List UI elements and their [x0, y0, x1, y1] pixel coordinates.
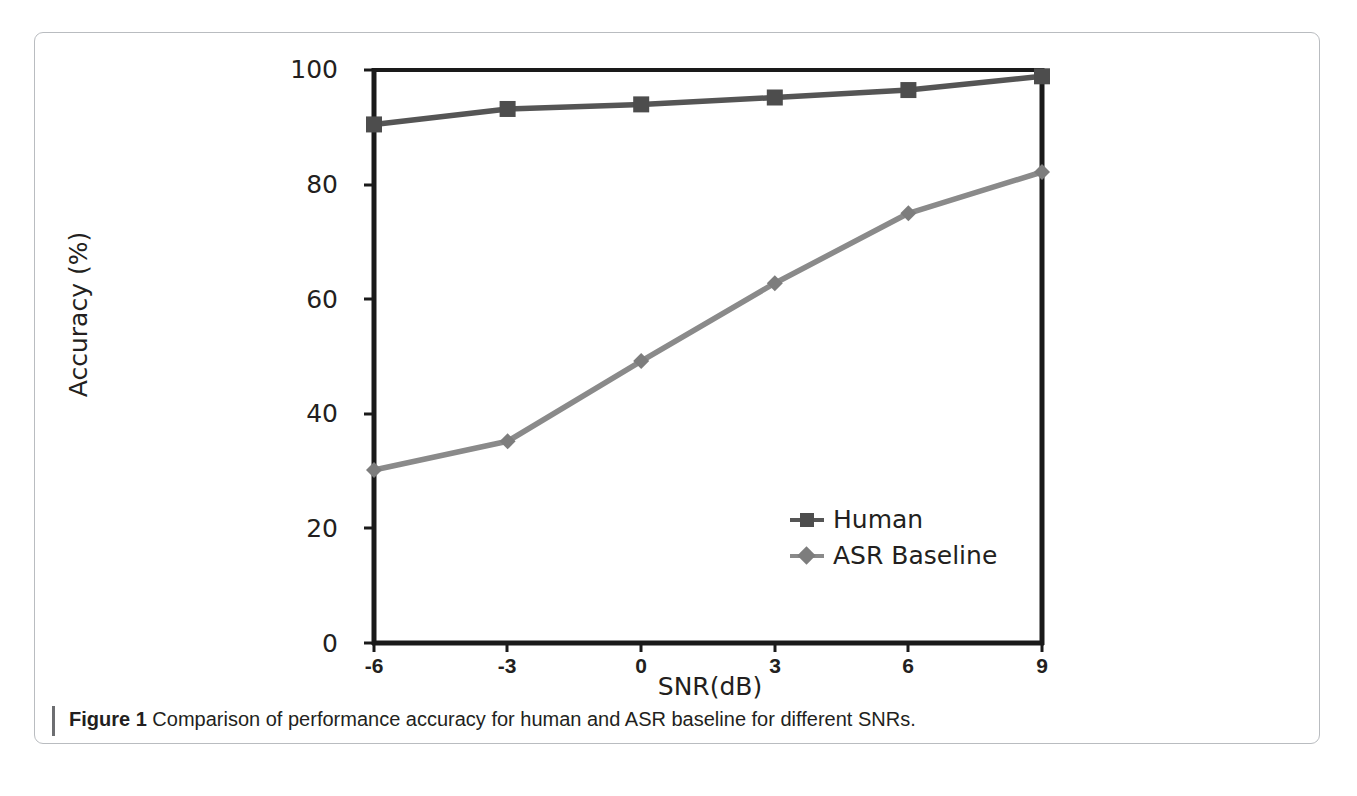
x-tick-label-6: 6 — [878, 655, 938, 676]
x-tick-label--3: -3 — [477, 655, 537, 676]
chart-legend: Human ASR Baseline — [790, 502, 997, 574]
x-tick-label--6: -6 — [344, 655, 404, 676]
caption-prefix: Figure 1 — [69, 708, 147, 730]
legend-label-human: Human — [833, 503, 923, 537]
y-tick-label-80: 80 — [278, 172, 338, 197]
figure-page: 100 80 60 40 20 0 -6 -3 0 3 6 9 Accuracy… — [0, 0, 1357, 796]
x-axis-title: SNR(dB) — [560, 672, 860, 701]
y-tick-label-0: 0 — [278, 631, 338, 656]
caption-body: Comparison of performance accuracy for h… — [152, 708, 915, 730]
caption-text: Figure 1 Comparison of performance accur… — [69, 706, 916, 732]
legend-marker-square-icon — [790, 512, 824, 528]
caption-rule — [52, 706, 55, 736]
legend-label-asr-baseline: ASR Baseline — [833, 539, 997, 573]
y-tick-label-20: 20 — [278, 516, 338, 541]
legend-item-human: Human — [790, 502, 997, 538]
y-tick-label-40: 40 — [278, 401, 338, 426]
legend-item-asr-baseline: ASR Baseline — [790, 538, 997, 574]
x-tick-label-9: 9 — [1012, 655, 1072, 676]
legend-marker-diamond-icon — [790, 548, 824, 564]
y-tick-label-60: 60 — [278, 287, 338, 312]
figure-frame — [34, 32, 1320, 744]
y-axis-title: Accuracy (%) — [64, 165, 93, 465]
figure-caption: Figure 1 Comparison of performance accur… — [52, 706, 1292, 736]
y-tick-label-100: 100 — [278, 57, 338, 82]
